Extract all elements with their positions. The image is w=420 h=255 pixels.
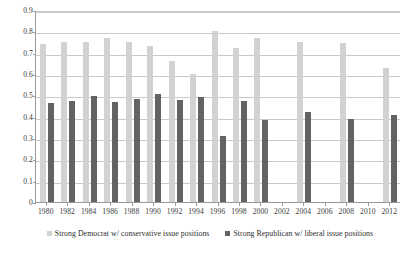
bar [391,115,397,202]
bar-group [254,12,268,202]
y-axis-tick-label: 0.7 [5,50,33,58]
bar [241,101,247,202]
y-axis-tick-label: 0.4 [5,114,33,122]
bar-group [297,12,311,202]
y-axis-tick-label: 0.9 [5,7,33,15]
bar [112,102,118,202]
x-axis-tick-mark [325,203,326,206]
legend-item: Strong Democrat w/ conservative issue po… [47,230,210,238]
x-axis-tick-mark [282,203,283,206]
bar-group [383,12,397,202]
x-axis-tick-mark [89,203,90,206]
bar-group [319,12,333,202]
bar [383,68,389,202]
bar [83,42,89,202]
x-axis-tick-mark [346,203,347,206]
x-axis-tick-mark [110,203,111,206]
bar [212,31,218,202]
bar [48,103,54,202]
legend-swatch-icon [47,231,52,236]
x-axis-tick-mark [196,203,197,206]
bar-group [83,12,97,202]
bar [305,112,311,202]
bar [91,96,97,202]
bar [61,42,67,202]
bar-group [212,12,226,202]
bar [126,42,132,202]
bar-group [126,12,140,202]
y-axis-tick-label: 0.3 [5,135,33,143]
bar [220,136,226,202]
bar-group [61,12,75,202]
x-axis-tick-mark [368,203,369,206]
bar [169,61,175,202]
bar-group [276,12,290,202]
y-axis-tick-label: 0.1 [5,178,33,186]
bar-group [147,12,161,202]
x-axis-tick-mark [175,203,176,206]
x-axis-tick-mark [153,203,154,206]
bar [147,46,153,202]
y-axis-tick-label: 0.8 [5,28,33,36]
bar-group [190,12,204,202]
y-axis-tick-label: 0 [5,199,33,207]
bar [177,100,183,202]
bar-group [104,12,118,202]
bar-group [362,12,376,202]
x-axis-tick-mark [303,203,304,206]
bar [262,120,268,202]
bar-group [340,12,354,202]
bar-chart: 0.90.80.70.60.50.40.30.20.10 19801982198… [0,0,420,255]
x-axis-tick-label: 2012 [374,208,404,216]
bar [198,97,204,202]
bar [340,43,346,202]
legend-label: Strong Republican w/ liberal issue posit… [233,230,373,238]
y-axis-tick-label: 0.2 [5,156,33,164]
x-axis-tick-mark [389,203,390,206]
bar [254,38,260,202]
x-axis-tick-mark [67,203,68,206]
legend-swatch-icon [225,231,230,236]
bar [134,99,140,202]
bar-group [40,12,54,202]
chart-legend: Strong Democrat w/ conservative issue po… [0,230,420,238]
x-axis: 1980198219841986198819901992199419961998… [35,203,400,225]
bar [69,101,75,202]
bar [297,42,303,202]
x-axis-tick-mark [218,203,219,206]
bar [104,38,110,202]
bar-group [233,12,247,202]
bar-group [169,12,183,202]
legend-item: Strong Republican w/ liberal issue posit… [225,230,373,238]
legend-label: Strong Democrat w/ conservative issue po… [55,230,210,238]
x-axis-tick-mark [132,203,133,206]
y-axis: 0.90.80.70.60.50.40.30.20.10 [0,0,33,255]
bar [190,74,196,202]
y-axis-tick-label: 0.6 [5,71,33,79]
y-axis-tick-label: 0.5 [5,92,33,100]
bar [40,44,46,202]
plot-area [35,11,400,203]
bar [155,94,161,202]
x-axis-tick-mark [260,203,261,206]
x-axis-tick-mark [46,203,47,206]
bar [233,48,239,202]
bar [348,119,354,202]
x-axis-tick-mark [239,203,240,206]
